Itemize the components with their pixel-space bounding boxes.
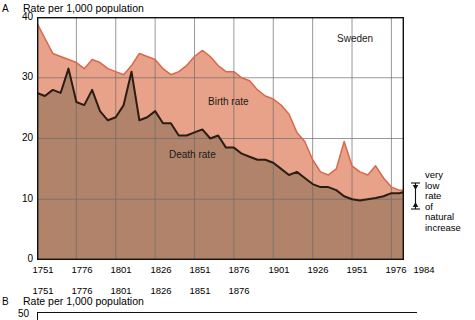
chart-svg <box>37 17 404 260</box>
x-tick-label-1776: 1776 <box>71 264 92 275</box>
panel-b-axis-caption: Rate per 1,000 population <box>23 295 144 307</box>
natural-increase-arrow-icon <box>410 181 421 211</box>
x-tick-label-1751: 1751 <box>32 264 53 275</box>
panel-a-axis-caption: Rate per 1,000 population <box>23 2 144 14</box>
natural-increase-annotation: very low rate of natural increase <box>425 170 475 233</box>
chart-plot-area <box>37 17 404 260</box>
x-tick-label-1976: 1976 <box>385 264 406 275</box>
y-tick-label-0: 0 <box>11 253 33 264</box>
series-label-death-rate: Death rate <box>169 149 216 160</box>
x-tick-label-1926: 1926 <box>307 264 328 275</box>
annotation-line-1: very <box>425 170 475 181</box>
x-tick-label-1984: 1984 <box>413 264 434 275</box>
panel-b-x-tick-1851: 1851 <box>189 285 210 296</box>
x-tick-label-1851: 1851 <box>189 264 210 275</box>
series-label-birth-rate: Birth rate <box>208 96 249 107</box>
x-tick-label-1901: 1901 <box>268 264 289 275</box>
panel-b-x-tick-1876: 1876 <box>228 285 249 296</box>
panel-b-x-tick-1826: 1826 <box>150 285 171 296</box>
panel-a-marker: A <box>2 3 9 14</box>
x-tick-label-1876: 1876 <box>228 264 249 275</box>
panel-b-y-tick-label-50: 50 <box>18 308 29 319</box>
chart-title-sweden: Sweden <box>337 33 373 44</box>
y-tick-label-10: 10 <box>11 193 33 204</box>
panel-b-axis-frame <box>37 312 417 320</box>
y-tick-label-20: 20 <box>11 132 33 143</box>
annotation-line-3: rate <box>425 191 475 202</box>
panel-b-marker: B <box>2 296 9 307</box>
x-tick-label-1826: 1826 <box>150 264 171 275</box>
annotation-line-6: increase <box>425 223 475 234</box>
y-tick-label-30: 30 <box>11 71 33 82</box>
x-tick-label-1801: 1801 <box>110 264 131 275</box>
x-tick-label-1951: 1951 <box>346 264 367 275</box>
y-tick-label-40: 40 <box>11 11 33 22</box>
annotation-line-5: natural <box>425 212 475 223</box>
